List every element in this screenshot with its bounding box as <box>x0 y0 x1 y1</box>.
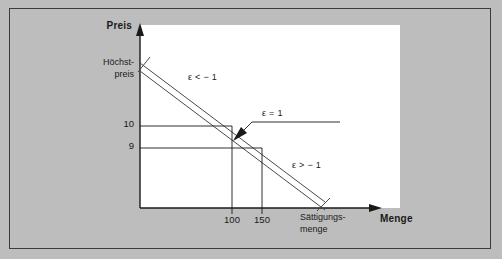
y-axis-title: Preis <box>86 20 132 32</box>
inelastic-region-label: ε > − 1 <box>292 160 321 170</box>
max-price-label-line2: preis <box>78 69 134 79</box>
x-axis <box>140 204 382 212</box>
demand-curve <box>138 57 330 211</box>
reference-lines-price-9 <box>140 148 262 208</box>
x-axis-arrowhead <box>369 204 382 212</box>
y-tick-label-9: 9 <box>104 141 134 152</box>
elastic-region-label: ε < − 1 <box>188 72 217 82</box>
saturation-quantity-label-line2: menge <box>300 224 328 234</box>
x-tick-label-150: 150 <box>244 215 280 226</box>
x-axis-title: Menge <box>380 213 413 225</box>
economics-demand-curve-figure: Preis Menge Höchst- preis 10 9 100 150 ε… <box>0 0 502 259</box>
max-price-label-line1: Höchst- <box>78 57 134 67</box>
y-axis-arrowhead <box>136 23 144 36</box>
y-axis <box>136 23 144 208</box>
unit-elastic-label: ε = 1 <box>262 108 283 118</box>
reference-lines-price-10 <box>140 126 232 208</box>
y-tick-label-10: 10 <box>104 119 134 130</box>
unit-elastic-leader <box>233 122 340 141</box>
saturation-quantity-label-line1: Sättigungs- <box>300 212 346 222</box>
